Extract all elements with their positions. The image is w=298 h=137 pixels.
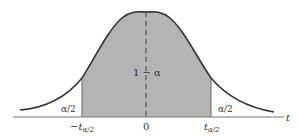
tick-right-critical: tα/2 — [204, 121, 220, 134]
right-tail-label: α/2 — [218, 104, 233, 114]
t-distribution-diagram: t 1 − α α/2 α/2 −tα/2 0 tα/2 — [0, 0, 298, 137]
tick-left-sub: α/2 — [82, 126, 94, 134]
tick-right-sub: α/2 — [208, 126, 220, 134]
left-tail-label: α/2 — [61, 104, 76, 114]
center-label: 1 − α — [133, 67, 161, 78]
tick-left-critical: −tα/2 — [70, 121, 94, 134]
tick-center-zero: 0 — [143, 121, 149, 132]
tick-left-main: −t — [70, 121, 83, 132]
shaded-central-region — [82, 12, 211, 117]
axis-label-t: t — [286, 112, 291, 123]
